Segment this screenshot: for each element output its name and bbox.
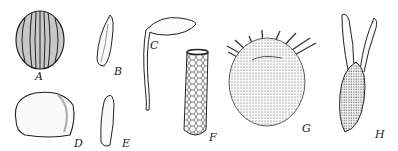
label-g: G — [302, 123, 311, 134]
egg-g-drawing — [227, 30, 316, 126]
figure-drawings — [0, 0, 398, 151]
label-b: B — [114, 66, 122, 77]
egg-h-drawing — [336, 14, 377, 135]
label-h: H — [375, 129, 385, 140]
label-d: D — [74, 138, 83, 149]
label-f: F — [209, 132, 217, 143]
label-a: A — [35, 71, 43, 82]
label-e: E — [122, 138, 130, 149]
egg-b-drawing — [97, 15, 113, 66]
egg-f-drawing — [180, 49, 212, 142]
egg-illustration-figure: A B C D E F G H — [0, 0, 398, 151]
egg-a-drawing — [14, 10, 66, 70]
egg-e-drawing — [101, 95, 114, 146]
label-c: C — [150, 40, 158, 51]
